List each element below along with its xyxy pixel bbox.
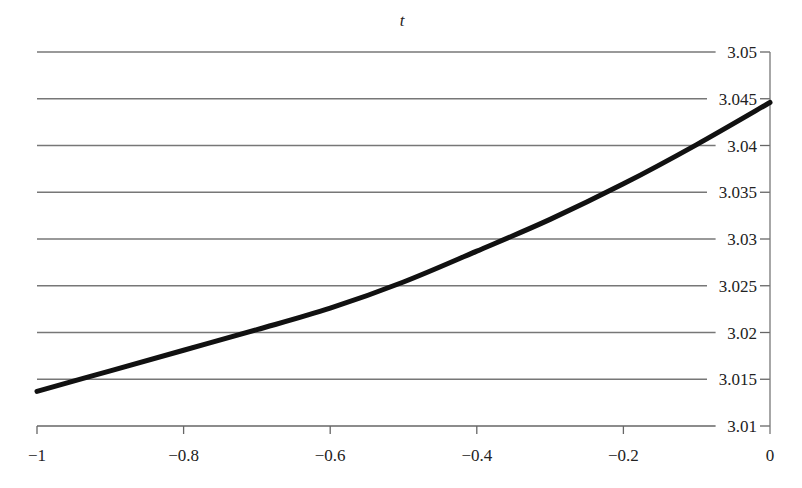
y-tick-label: 3.04 [727,137,757,156]
y-tick-label: 3.035 [719,183,757,202]
horizontal-gridlines [37,52,770,426]
axes [37,52,770,434]
y-tick-label: 3.05 [727,43,757,62]
x-tick-label: 0 [766,446,775,465]
x-tick-label: −0.6 [315,446,346,465]
x-tick-label: −0.4 [461,446,492,465]
x-tick-label: −1 [28,446,46,465]
x-axis-tick-labels: −1−0.8−0.6−0.4−0.20 [28,446,774,465]
x-tick-label: −0.8 [168,446,199,465]
y-tick-label: 3.02 [727,324,757,343]
y-tick-label: 3.025 [719,277,757,296]
y-tick-label: 3.045 [719,90,757,109]
y-axis-tick-labels: 3.013.0153.023.0253.033.0353.043.0453.05 [719,43,758,436]
chart-title: t [400,11,406,30]
y-tick-label: 3.01 [727,417,757,436]
y-tick-label: 3.015 [719,370,757,389]
y-tick-label: 3.03 [727,230,757,249]
line-chart: 3.013.0153.023.0253.033.0353.043.0453.05… [0,0,802,488]
x-tick-label: −0.2 [608,446,639,465]
